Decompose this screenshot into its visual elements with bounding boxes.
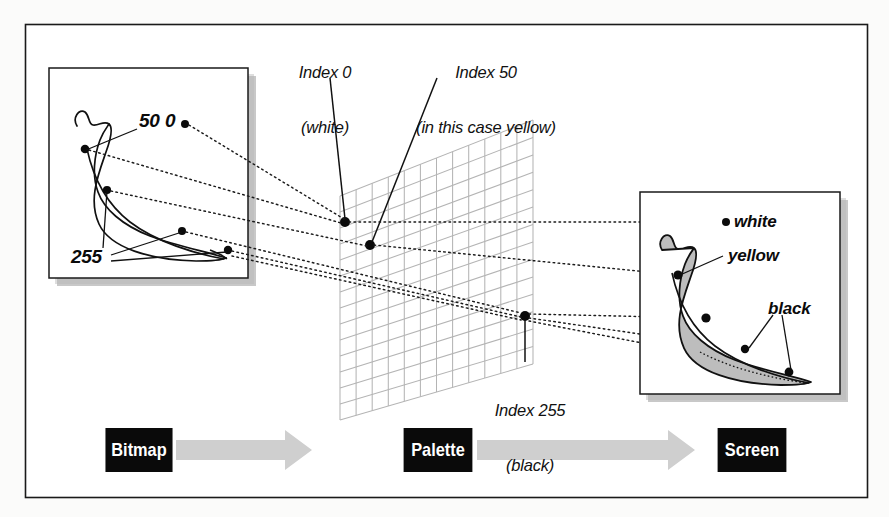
screen-dot-black1 [701, 313, 710, 322]
bitmap-label-255: 255 [71, 246, 102, 268]
callout-index-50-line1: Index 50 [388, 63, 584, 81]
flow-step-palette[interactable]: Palette [404, 428, 473, 472]
callout-index-0-line2: (white) [265, 118, 385, 136]
bitmap-label-0: 0 [165, 110, 175, 132]
flow-step-screen-label: Screen [725, 439, 780, 461]
flow-step-palette-label: Palette [411, 439, 465, 461]
flow-step-bitmap-label: Bitmap [111, 439, 166, 461]
bitmap-dot-edge [178, 227, 186, 235]
bitmap-dot-0 [181, 120, 189, 128]
callout-index-50-line2: (in this case yellow) [388, 118, 584, 136]
screen-dot-black2 [741, 345, 749, 353]
callout-index-255-line1: Index 255 [470, 401, 590, 419]
bitmap-dot-tip [224, 246, 232, 254]
screen-dot-white [722, 218, 730, 226]
diagram-figure: Index 0 (white) Index 50 (in this case y… [0, 0, 889, 517]
screen-label-black: black [768, 299, 810, 319]
callout-index-255-line2: (black) [470, 456, 590, 474]
bitmap-label-50: 50 [139, 110, 160, 132]
flow-step-screen[interactable]: Screen [718, 428, 787, 472]
screen-label-white: white [734, 212, 776, 232]
flow-step-bitmap[interactable]: Bitmap [105, 428, 172, 472]
callout-index-255: Index 255 (black) [470, 364, 590, 512]
screen-label-yellow: yellow [728, 246, 779, 266]
screen-dot-black3 [785, 368, 794, 377]
callout-index-0: Index 0 (white) [265, 26, 385, 174]
callout-index-0-line1: Index 0 [265, 63, 385, 81]
callout-index-50: Index 50 (in this case yellow) [388, 26, 584, 174]
